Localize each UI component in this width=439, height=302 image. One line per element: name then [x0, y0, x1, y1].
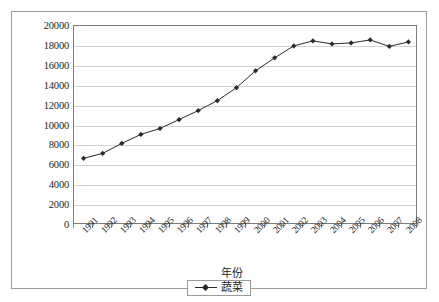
y-tick-label: 16000	[44, 59, 69, 70]
data-point-marker	[157, 126, 162, 131]
y-tick-label: 12000	[44, 99, 69, 110]
y-axis-tick-labels: 0200040006000800010000120001400016000180…	[12, 25, 69, 224]
figure-border: 0200040006000800010000120001400016000180…	[11, 11, 427, 289]
series-line	[84, 40, 409, 158]
y-tick-label: 4000	[49, 179, 69, 190]
y-tick-label: 20000	[44, 20, 69, 31]
data-point-marker	[368, 37, 373, 42]
legend-marker-icon	[195, 283, 217, 292]
data-point-marker	[291, 43, 296, 48]
data-point-marker	[138, 132, 143, 137]
data-point-marker	[349, 40, 354, 45]
data-point-marker	[310, 38, 315, 43]
data-point-marker	[387, 44, 392, 49]
data-point-marker	[329, 41, 334, 46]
data-point-marker	[406, 39, 411, 44]
data-point-marker	[177, 117, 182, 122]
y-tick-label: 18000	[44, 39, 69, 50]
data-point-marker	[81, 156, 86, 161]
plot-area	[73, 25, 417, 224]
y-tick-label: 10000	[44, 119, 69, 130]
y-tick-label: 2000	[49, 199, 69, 210]
data-point-marker	[100, 151, 105, 156]
data-point-marker	[196, 108, 201, 113]
x-axis-title: 年份	[12, 264, 439, 280]
data-point-marker	[119, 141, 124, 146]
x-axis-tick-labels: 1991199219931994199519961997199819992000…	[73, 228, 417, 268]
chart-legend: 蔬菜	[187, 280, 251, 296]
series-line-vegetables	[74, 26, 418, 225]
legend-label: 蔬菜	[221, 282, 243, 293]
y-tick-label: 6000	[49, 159, 69, 170]
y-tick-label: 14000	[44, 79, 69, 90]
y-tick-label: 8000	[49, 139, 69, 150]
chart-figure: 0200040006000800010000120001400016000180…	[0, 0, 439, 302]
y-tick-label: 0	[64, 219, 69, 230]
